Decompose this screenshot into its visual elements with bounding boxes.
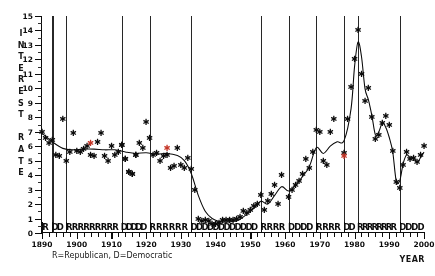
x-axis-ticks: 1890190019101920193019401950196019701980…	[42, 233, 424, 251]
party-letters-row: RDDRRRRRRRRRDDDDDRRRRRRDDDDDDDDDDDDRRRRD…	[42, 222, 424, 233]
x-tick-minor	[361, 233, 362, 237]
y-tick	[35, 74, 42, 75]
x-tick-minor	[91, 233, 92, 237]
data-marker: ✱	[330, 114, 337, 123]
x-tick-minor	[230, 233, 231, 237]
y-tick-label: 12	[20, 55, 33, 64]
x-tick-minor	[49, 233, 50, 237]
x-tick-minor	[306, 233, 307, 237]
party-letter-r: R	[112, 222, 119, 233]
y-tick-label: 6	[20, 142, 33, 151]
x-tick-major	[320, 233, 321, 239]
party-letter-r: R	[181, 222, 188, 233]
y-tick	[35, 117, 42, 118]
x-axis-title: YEAR	[399, 255, 425, 264]
x-tick-major	[111, 233, 112, 239]
x-tick-major	[285, 233, 286, 239]
y-tick	[35, 45, 42, 46]
y-tick	[35, 204, 42, 205]
x-tick-minor	[368, 233, 369, 237]
party-letter-d: D	[306, 222, 313, 233]
party-letter-r: R	[42, 222, 49, 233]
data-marker: ✱	[118, 141, 125, 150]
y-tick	[35, 59, 42, 60]
data-marker: ✱	[361, 97, 368, 106]
y-tick	[35, 161, 42, 162]
data-marker: ✱	[327, 127, 334, 136]
party-letter-d: D	[57, 222, 64, 233]
data-marker: ✱	[375, 130, 382, 139]
x-tick-major	[389, 233, 390, 239]
party-segment-divider	[66, 222, 67, 233]
legend-note: R=Republican, D=Democratic	[52, 251, 173, 260]
x-tick-minor	[174, 233, 175, 237]
x-tick-major	[424, 233, 425, 239]
data-marker: ✱	[129, 169, 136, 178]
y-tick	[35, 190, 42, 191]
x-tick-minor	[209, 233, 210, 237]
x-tick-label: 1920	[136, 240, 157, 249]
y-tick-label: 4	[20, 171, 33, 180]
party-segment-divider	[358, 222, 359, 233]
data-marker: ✱	[94, 138, 101, 147]
party-segment-divider	[42, 222, 43, 233]
x-tick-minor	[63, 233, 64, 237]
data-marker: ✱	[271, 181, 278, 190]
y-tick	[35, 175, 42, 176]
y-tick	[35, 146, 42, 147]
data-marker: ✱	[188, 165, 195, 174]
x-tick-minor	[160, 233, 161, 237]
x-tick-minor	[188, 233, 189, 237]
party-segment-divider	[316, 222, 317, 233]
x-tick-minor	[56, 233, 57, 237]
trend-line	[42, 16, 424, 233]
data-marker: ✱	[191, 185, 198, 194]
y-tick-label: 0	[20, 229, 33, 238]
y-tick-label: 5	[20, 156, 33, 165]
y-tick-label: 14	[20, 26, 33, 35]
party-segment-divider	[52, 222, 53, 233]
x-tick-label: 1940	[205, 240, 226, 249]
data-marker: ✱	[268, 190, 275, 199]
data-marker: ✱	[122, 155, 129, 164]
x-tick-minor	[70, 233, 71, 237]
party-letter-r: R	[391, 222, 398, 233]
x-tick-label: 1950	[240, 240, 261, 249]
data-marker-highlight: ✱	[163, 143, 170, 152]
x-tick-minor	[271, 233, 272, 237]
party-letter-d: D	[417, 222, 424, 233]
y-tick-label: 3	[20, 185, 33, 194]
x-tick-label: 1910	[101, 240, 122, 249]
data-marker: ✱	[313, 126, 320, 135]
x-tick-minor	[264, 233, 265, 237]
data-marker: ✱	[146, 133, 153, 142]
y-tick-label: 15	[20, 12, 33, 21]
data-marker: ✱	[368, 113, 375, 122]
x-tick-major	[42, 233, 43, 239]
data-marker: ✱	[323, 161, 330, 170]
party-letter-d: D	[348, 222, 355, 233]
party-segment-divider	[150, 222, 151, 233]
y-tick	[35, 30, 42, 31]
plot-area: 0123456789101112131415 ✱✱✱✱✱✱✱✱✱✱✱✱✱✱✱✱✱…	[42, 16, 424, 233]
x-tick-minor	[125, 233, 126, 237]
party-segment-divider	[261, 222, 262, 233]
x-tick-minor	[223, 233, 224, 237]
x-tick-minor	[105, 233, 106, 237]
x-tick-minor	[118, 233, 119, 237]
x-tick-label: 1990	[379, 240, 400, 249]
y-tick	[35, 103, 42, 104]
party-letter-d: D	[140, 222, 147, 233]
x-tick-major	[77, 233, 78, 239]
data-marker: ✱	[358, 70, 365, 79]
x-tick-minor	[341, 233, 342, 237]
x-tick-minor	[417, 233, 418, 237]
x-tick-label: 1900	[66, 240, 87, 249]
party-letter-d: D	[251, 222, 258, 233]
data-marker: ✱	[420, 142, 427, 151]
x-tick-minor	[348, 233, 349, 237]
data-marker: ✱	[275, 200, 282, 209]
x-tick-major	[146, 233, 147, 239]
y-tick-label: 9	[20, 98, 33, 107]
x-tick-label: 1890	[32, 240, 53, 249]
